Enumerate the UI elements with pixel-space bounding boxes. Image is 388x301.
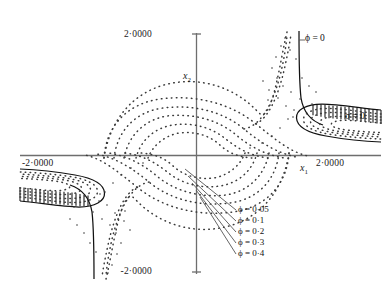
leader-line-3	[192, 183, 236, 232]
phi-contour-lower-4	[125, 153, 257, 187]
leader-line-2	[188, 176, 236, 221]
y-axis-label: x2	[183, 70, 191, 84]
x-axis-max-tick-label: 2·0000	[316, 158, 344, 168]
legend-item-2: ϕ = 0·2	[238, 226, 264, 236]
phi-contours-upper	[104, 98, 308, 158]
y-axis-label-sub: 2	[187, 76, 191, 84]
phi-contour-upper-4	[136, 124, 268, 158]
y-axis-max-tick-label: 2·0000	[124, 29, 152, 39]
x-axis-label: x1	[300, 162, 308, 176]
legend-item-3: ϕ = 0·3	[238, 237, 264, 247]
phi-contour-upper-5	[148, 133, 252, 158]
plot-canvas	[0, 0, 388, 301]
phi-contour-upper-2	[114, 107, 296, 158]
phi-contour-lower-2	[97, 153, 279, 204]
x-axis-min-tick-label: -2·0000	[22, 158, 53, 168]
x-axis-label-sub: 1	[304, 168, 308, 176]
leader-line-4	[196, 190, 236, 243]
contour-plot-figure: 2·0000 -2·0000 -2·0000 2·0000 x2 x1 ϕ = …	[0, 0, 388, 301]
legend-item-1: ϕ = 0·1	[238, 215, 264, 225]
legend-leader-lines	[185, 169, 236, 254]
phi-contour-lower-5	[141, 153, 245, 178]
sigma-zero-label: σ = 0	[345, 111, 365, 121]
legend-item-4: ϕ = 0·4	[238, 248, 264, 258]
phi-zero-label: ϕ = 0	[305, 33, 325, 43]
left-lobe-hatching	[20, 187, 88, 206]
y-axis-min-tick-label: -2·0000	[121, 266, 152, 276]
legend-item-0: ϕ = 0·05	[238, 204, 269, 214]
axis-group	[20, 33, 381, 274]
